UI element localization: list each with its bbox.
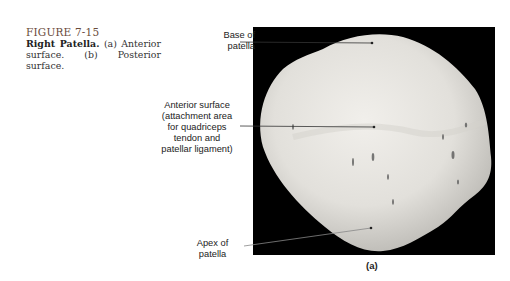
label-line: Anterior surface [147, 100, 247, 111]
panel-label: (a) [366, 260, 378, 271]
label-line: for quadriceps [147, 122, 247, 133]
label-line: Base of [205, 30, 255, 41]
label-base-of-patella: Base of patella [205, 30, 255, 52]
label-line: patella [205, 41, 255, 52]
label-line: (attachment area [147, 111, 247, 122]
label-line: patella [185, 249, 240, 260]
label-apex-of-patella: Apex of patella [185, 238, 240, 260]
label-anterior-surface: Anterior surface (attachment area for qu… [147, 100, 247, 155]
label-line: Apex of [185, 238, 240, 249]
leader-lines [0, 0, 510, 281]
label-line: tendon and [147, 133, 247, 144]
label-line: patellar ligament) [147, 144, 247, 155]
